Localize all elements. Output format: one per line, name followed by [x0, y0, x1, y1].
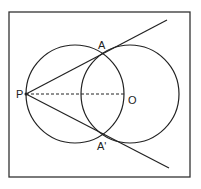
label-P: P: [16, 88, 23, 100]
point-P: [25, 93, 28, 96]
left-circle: [26, 45, 124, 143]
upper-tangent-line: [26, 20, 167, 94]
label-A: A: [98, 39, 106, 51]
label-A-prime: A': [97, 140, 106, 152]
lower-tangent-line: [26, 94, 169, 168]
tangent-circles-diagram: P A A' O: [0, 0, 201, 189]
label-O: O: [128, 94, 137, 106]
